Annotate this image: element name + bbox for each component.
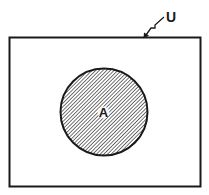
universe-pointer-arrow [144, 17, 165, 39]
universe-label: U [166, 9, 176, 25]
venn-diagram: A U [0, 0, 209, 195]
set-a-label: A [99, 105, 109, 120]
